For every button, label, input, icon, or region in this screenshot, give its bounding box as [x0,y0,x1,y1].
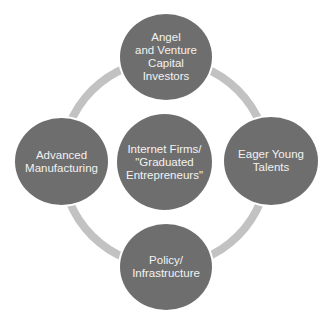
node-label: Policy/ Infrastructure [132,254,200,280]
node-label: Advanced Manufacturing [25,149,98,175]
node-eager-young-talents: Eager Young Talents [224,117,318,205]
center-label: Internet Firms/ "Graduated Entrepreneurs… [126,143,203,182]
node-angel-vc-investors: Angel and Venture Capital Investors [120,14,212,100]
ecosystem-cycle-diagram: Angel and Venture Capital Investors Eage… [0,0,330,323]
center-node-internet-firms: Internet Firms/ "Graduated Entrepreneurs… [117,114,212,210]
node-label: Eager Young Talents [238,148,304,174]
node-label: Angel and Venture Capital Investors [135,31,197,83]
node-policy-infrastructure: Policy/ Infrastructure [120,224,212,310]
node-advanced-manufacturing: Advanced Manufacturing [15,118,108,205]
